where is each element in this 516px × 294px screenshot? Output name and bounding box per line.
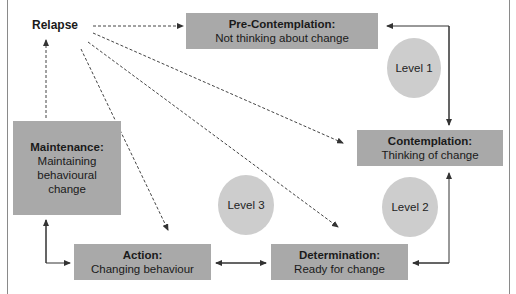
level-2-circle: Level 2 <box>382 177 438 237</box>
stage-title: Contemplation: <box>388 134 472 148</box>
stage-desc: Ready for change <box>294 262 385 276</box>
stage-action: Action: Changing behaviour <box>74 244 211 280</box>
relapse-label: Relapse <box>32 18 78 32</box>
stage-desc: Thinking of change <box>381 148 478 162</box>
arrow-maintenance-action <box>46 220 70 263</box>
level-3-circle: Level 3 <box>218 175 274 235</box>
stage-title: Action: <box>123 248 163 262</box>
stage-title: Pre-Contemplation: <box>229 17 336 31</box>
level-1-circle: Level 1 <box>387 38 441 98</box>
stage-title: Maintenance: <box>30 140 104 154</box>
stage-contemplation: Contemplation: Thinking of change <box>357 130 503 166</box>
arrow-relapse-to-determination <box>88 42 338 227</box>
stage-desc: Changing behaviour <box>91 262 194 276</box>
arrow-relapse-to-contemplation <box>93 33 343 143</box>
stage-desc-line: behavioural <box>37 168 96 182</box>
stage-desc-line: Maintaining <box>38 154 97 168</box>
stage-desc-line: change <box>48 182 86 196</box>
stage-title: Determination: <box>299 248 380 262</box>
stage-desc: Not thinking about change <box>215 31 349 45</box>
stage-determination: Determination: Ready for change <box>271 244 408 280</box>
stage-maintenance: Maintenance: Maintaining behavioural cha… <box>13 121 121 215</box>
stage-pre-contemplation: Pre-Contemplation: Not thinking about ch… <box>186 13 378 49</box>
